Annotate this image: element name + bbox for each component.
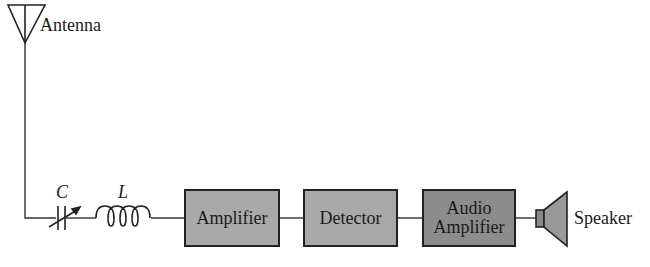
antenna-label: Antenna — [40, 15, 101, 36]
detector-block: Detector — [303, 189, 398, 247]
audio-amplifier-block: Audio Amplifier — [422, 189, 516, 247]
amplifier-block: Amplifier — [184, 189, 280, 247]
inductor-label: L — [118, 182, 128, 203]
antenna-wire — [25, 43, 56, 218]
capacitor-label: C — [56, 182, 68, 203]
speaker-icon — [536, 192, 567, 246]
inductor-icon — [96, 206, 150, 226]
speaker-label: Speaker — [574, 208, 632, 229]
